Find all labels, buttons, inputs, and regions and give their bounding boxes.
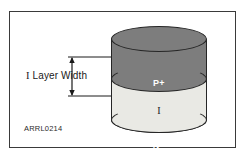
p-plus-layer-top-cap	[111, 26, 207, 52]
intrinsic-layer-label: I	[111, 105, 207, 116]
figure-id-label: ARRL0214	[24, 124, 62, 133]
p-plus-layer-label: P+	[111, 78, 207, 88]
figure-root: P+ I N+ ILayer Width ARRL0214	[0, 0, 245, 157]
pin-diode-cylinder: P+ I N+	[111, 26, 207, 133]
n-plus-layer-label: N+	[111, 140, 207, 150]
